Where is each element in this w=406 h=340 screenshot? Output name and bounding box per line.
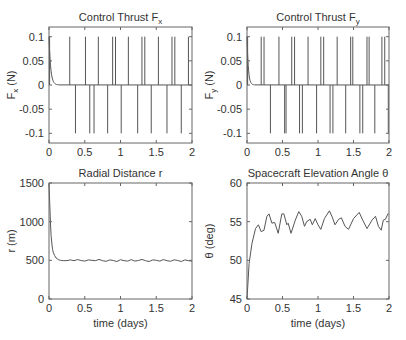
chart-title: Spacecraft Elevation Angle θ bbox=[248, 167, 389, 179]
x-tick-label: 1.5 bbox=[149, 146, 164, 158]
y-axis-label: Fy (N) bbox=[203, 70, 218, 99]
x-tick-label: 2 bbox=[386, 302, 392, 314]
x-tick-label: 1 bbox=[117, 302, 123, 314]
data-series bbox=[49, 185, 192, 262]
y-tick-label: -0.05 bbox=[217, 103, 242, 115]
y-tick-label: 0 bbox=[38, 79, 44, 91]
y-tick-label: 60 bbox=[230, 177, 242, 189]
axes-box bbox=[247, 183, 389, 299]
x-tick-label: 1 bbox=[117, 146, 123, 158]
y-axis-label: Fx (N) bbox=[5, 70, 20, 99]
data-series bbox=[49, 37, 192, 134]
x-axis-label: time (days) bbox=[291, 317, 345, 329]
data-line bbox=[49, 185, 192, 262]
y-tick-label: -0.05 bbox=[19, 103, 44, 115]
x-tick-label: 1.5 bbox=[346, 302, 361, 314]
y-axis-label: θ (deg) bbox=[203, 224, 215, 259]
y-tick-label: 1500 bbox=[20, 177, 44, 189]
x-tick-label: 0 bbox=[46, 302, 52, 314]
x-tick-label: 0.5 bbox=[77, 146, 92, 158]
x-tick-label: 2 bbox=[189, 302, 195, 314]
y-tick-label: 0.1 bbox=[29, 31, 44, 43]
x-tick-label: 0 bbox=[244, 146, 250, 158]
x-tick-label: 1 bbox=[315, 146, 321, 158]
y-tick-label: 1000 bbox=[20, 216, 44, 228]
subplot-elevation-angle: 00.511.5245505560Spacecraft Elevation An… bbox=[203, 167, 392, 329]
thrust-baseline bbox=[49, 37, 192, 85]
y-tick-label: 0.1 bbox=[227, 31, 242, 43]
data-series bbox=[247, 211, 388, 299]
y-tick-label: 55 bbox=[230, 216, 242, 228]
x-tick-label: 0.5 bbox=[275, 302, 290, 314]
axes-box bbox=[49, 183, 192, 299]
y-tick-label: -0.1 bbox=[223, 127, 242, 139]
x-tick-label: 1.5 bbox=[149, 302, 164, 314]
subplot-control-thrust-fy: 00.511.52-0.1-0.0500.050.1Control Thrust… bbox=[203, 11, 392, 158]
x-axis-label: time (days) bbox=[93, 317, 147, 329]
x-tick-label: 0.5 bbox=[77, 302, 92, 314]
figure-canvas: 00.511.52-0.1-0.0500.050.1Control Thrust… bbox=[0, 0, 406, 340]
x-tick-label: 1.5 bbox=[346, 146, 361, 158]
y-tick-label: 50 bbox=[230, 254, 242, 266]
chart-title: Control Thrust Fx bbox=[79, 11, 162, 26]
y-tick-label: 0 bbox=[236, 79, 242, 91]
y-tick-label: 0.05 bbox=[23, 55, 44, 67]
x-tick-label: 2 bbox=[189, 146, 195, 158]
subplot-control-thrust-fx: 00.511.52-0.1-0.0500.050.1Control Thrust… bbox=[5, 11, 195, 158]
x-tick-label: 2 bbox=[386, 146, 392, 158]
thrust-baseline bbox=[247, 37, 389, 85]
y-tick-label: 0 bbox=[38, 293, 44, 305]
chart-title: Control Thrust Fy bbox=[276, 11, 359, 26]
y-axis-label: r (m) bbox=[5, 229, 17, 252]
y-tick-label: 45 bbox=[230, 293, 242, 305]
y-tick-label: -0.1 bbox=[25, 127, 44, 139]
subplot-radial-distance: 00.511.52050010001500Radial Distance rti… bbox=[5, 167, 195, 329]
x-tick-label: 0 bbox=[244, 302, 250, 314]
x-tick-label: 0.5 bbox=[275, 146, 290, 158]
x-tick-label: 0 bbox=[46, 146, 52, 158]
data-line bbox=[247, 211, 388, 299]
data-series bbox=[247, 37, 389, 134]
x-tick-label: 1 bbox=[315, 302, 321, 314]
y-tick-label: 0.05 bbox=[221, 55, 242, 67]
y-tick-label: 500 bbox=[26, 254, 44, 266]
chart-title: Radial Distance r bbox=[79, 167, 163, 179]
